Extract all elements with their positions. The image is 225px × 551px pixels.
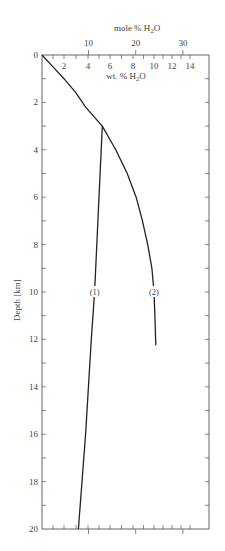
series-line-1 xyxy=(78,126,102,529)
y-tick-label: 0 xyxy=(34,50,39,60)
y-tick-label: 18 xyxy=(29,477,39,487)
top-axis-label: mole % H2O xyxy=(114,23,161,34)
top-axis-tick-label: 20 xyxy=(131,38,141,48)
y-tick-label: 20 xyxy=(29,524,39,534)
top-axis-tick-label: 10 xyxy=(84,38,94,48)
axis-labels: 2468101214102030mole % H2Owt. % H2O02468… xyxy=(12,23,195,534)
data-series xyxy=(42,55,161,529)
y-axis-label: Depth [km] xyxy=(12,279,22,321)
x-tick-label: 14 xyxy=(186,61,196,71)
x-axis-label: wt. % H2O xyxy=(106,71,146,82)
y-tick-label: 14 xyxy=(29,382,39,392)
x-tick-label: 8 xyxy=(131,61,136,71)
y-tick-label: 2 xyxy=(34,97,39,107)
x-tick-label: 4 xyxy=(86,61,91,71)
x-tick-label: 10 xyxy=(150,61,160,71)
x-tick-label: 2 xyxy=(62,61,67,71)
y-tick-label: 6 xyxy=(34,192,39,202)
y-tick-label: 16 xyxy=(29,429,39,439)
y-tick-label: 8 xyxy=(34,240,39,250)
x-tick-label: 6 xyxy=(108,61,113,71)
top-axis-tick-label: 30 xyxy=(178,38,188,48)
y-tick-label: 4 xyxy=(34,145,39,155)
y-tick-label: 10 xyxy=(29,287,39,297)
series-label-2: (2) xyxy=(149,287,159,297)
chart: 2468101214102030mole % H2Owt. % H2O02468… xyxy=(0,0,225,551)
plot-frame xyxy=(42,50,209,534)
x-tick-label: 12 xyxy=(168,61,177,71)
series-label-1: (1) xyxy=(90,287,100,297)
y-tick-label: 12 xyxy=(29,334,38,344)
plot-border xyxy=(42,55,209,529)
